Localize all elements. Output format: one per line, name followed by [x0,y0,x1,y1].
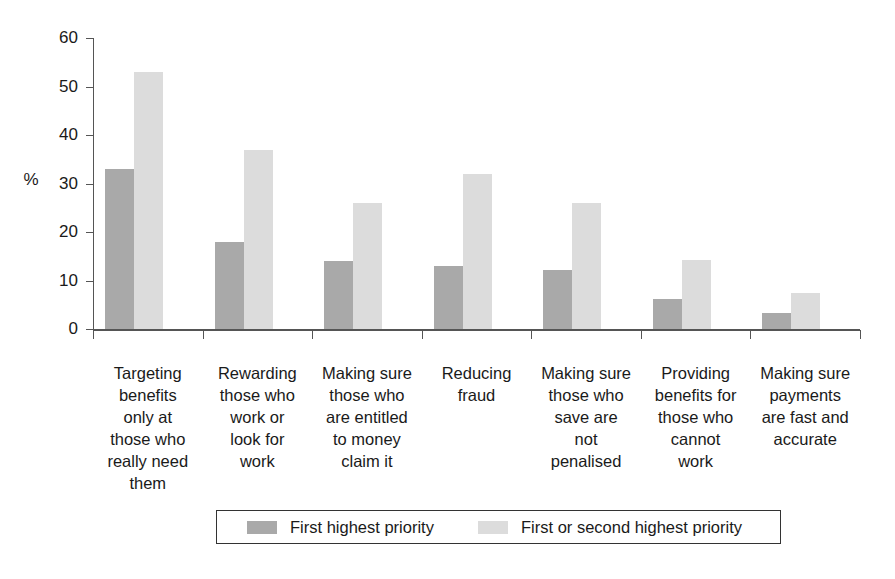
bar-group [203,38,313,329]
legend-label: First highest priority [290,518,434,537]
y-axis-tick-label: 40 [32,126,78,143]
bar-group [641,38,751,329]
x-axis-category-label: Targetingbenefitsonly atthose whoreally … [93,362,203,494]
bar [543,270,572,329]
plot-area [93,38,860,329]
bar [434,266,463,329]
x-axis-category-label: Making surethose whosave arenotpenalised [531,362,641,472]
bar-group [312,38,422,329]
bar [324,261,353,329]
bar [682,260,711,329]
legend-swatch-first-highest-priority [247,521,277,534]
bar [353,203,382,329]
y-axis-tick-label: 0 [32,320,78,337]
x-axis-tick [531,330,532,339]
x-axis-line [93,329,860,331]
bar-group [531,38,641,329]
bar [791,293,820,329]
legend-label: First or second highest priority [521,518,742,537]
x-axis-tick [93,330,94,339]
legend-item: First or second highest priority [478,518,742,537]
x-axis-tick [641,330,642,339]
x-axis-category-label: Providingbenefits forthose whocannotwork [641,362,751,472]
x-axis-category-label: Making surepaymentsare fast andaccurate [750,362,860,450]
bar-chart: % 6050403020100 Targetingbenefitsonly at… [0,0,895,579]
x-axis-tick [203,330,204,339]
legend-item: First highest priority [247,518,434,537]
y-axis-tick-label: 20 [32,223,78,240]
bar [134,72,163,329]
bar-group [750,38,860,329]
y-axis-tick-label: 10 [32,272,78,289]
y-axis-tick-label: 30 [32,175,78,192]
x-axis-tick [750,330,751,339]
chart-legend: First highest priority First or second h… [216,510,781,544]
bar [105,169,134,329]
bar [762,313,791,329]
bar [572,203,601,329]
bar [653,299,682,329]
y-axis-tick-label: 60 [32,29,78,46]
x-axis-tick [860,330,861,339]
bar [463,174,492,329]
x-axis-category-label: Rewardingthose whowork orlook forwork [203,362,313,472]
bar [215,242,244,329]
x-axis-category-label: Reducingfraud [422,362,532,406]
legend-swatch-first-or-second-highest-priority [478,521,508,534]
x-axis-tick [312,330,313,339]
x-axis-category-label: Making surethose whoare entitledto money… [312,362,422,472]
bar-group [93,38,203,329]
bar [244,150,273,329]
x-axis-tick [422,330,423,339]
bar-group [422,38,532,329]
y-axis-tick-label: 50 [32,78,78,95]
